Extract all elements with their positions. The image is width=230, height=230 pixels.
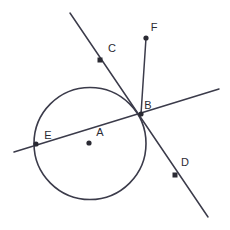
point-marker-e	[33, 141, 38, 146]
point-marker-d	[173, 173, 178, 178]
point-label-f: F	[151, 21, 158, 33]
geometry-canvas: A B C D E F	[0, 0, 230, 230]
point-marker-c	[98, 58, 103, 63]
geometry-figure: A B C D E F	[0, 0, 230, 230]
point-label-a: A	[96, 126, 104, 138]
point-marker-f	[143, 35, 148, 40]
secant-line-eb	[14, 89, 219, 152]
point-label-e: E	[44, 129, 51, 141]
point-label-d: D	[181, 156, 189, 168]
point-label-b: B	[144, 99, 151, 111]
point-marker-a	[86, 140, 91, 145]
point-label-c: C	[108, 42, 116, 54]
point-marker-b	[138, 111, 143, 116]
